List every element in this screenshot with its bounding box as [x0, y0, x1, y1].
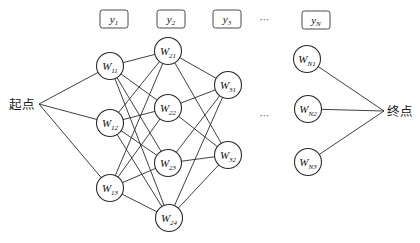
edge-layer: [39, 51, 384, 218]
multistage-graph-diagram: W11W12W13W21W22W23W24W31W32WN1WN2WN3 y1y…: [0, 0, 420, 243]
stage-box-y3: y3: [213, 10, 241, 28]
node-W24: W24: [156, 205, 183, 232]
node-layer: W11W12W13W21W22W23W24W31W32WN1WN2WN3: [97, 38, 322, 232]
node-W12: W12: [97, 110, 124, 137]
diagram-page: W11W12W13W21W22W23W24W31W32WN1WN2WN3 y1y…: [0, 0, 420, 243]
end-point-label: 终点: [387, 104, 413, 119]
node-W31: W31: [215, 72, 242, 99]
node-W13: W13: [97, 175, 124, 202]
node-WN1: WN1: [294, 46, 321, 73]
node-W22: W22: [155, 95, 182, 122]
ellipsis-middle: ⋯: [260, 110, 271, 121]
node-WN3: WN3: [295, 149, 322, 176]
stage-box-y2: y2: [157, 10, 185, 28]
node-W32: W32: [215, 142, 242, 169]
stage-box-layer: y1y2y3yN: [100, 10, 330, 29]
stage-box-y1: y1: [100, 10, 128, 28]
ellipsis-top: ⋯: [260, 14, 271, 25]
stage-box-yN: yN: [302, 11, 330, 29]
node-W11: W11: [97, 53, 124, 80]
node-W21: W21: [155, 38, 182, 65]
node-W23: W23: [155, 150, 182, 177]
node-WN2: WN2: [295, 96, 322, 123]
start-point-label: 起点: [9, 98, 35, 112]
